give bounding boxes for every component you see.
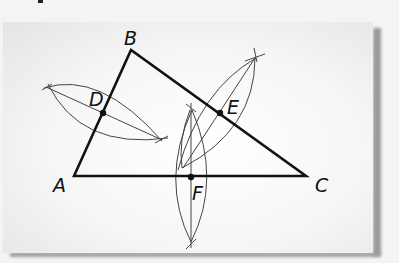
label-b: B (124, 27, 137, 49)
midpoint-f (188, 174, 194, 180)
label-c: C (315, 174, 329, 196)
midpoint-e (217, 110, 223, 116)
label-d: D (89, 88, 104, 110)
midpoint-d (100, 110, 106, 116)
label-e: E (227, 96, 239, 118)
label-f: F (192, 182, 204, 204)
label-a: A (51, 174, 66, 196)
triangle-construction-diagram: A B C D E F (0, 0, 399, 263)
